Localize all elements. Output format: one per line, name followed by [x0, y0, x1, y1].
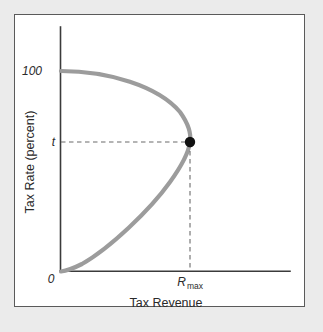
x-tick-label-rmax-base: R — [177, 275, 186, 289]
y-axis-title: Tax Rate (percent) — [23, 111, 37, 214]
x-tick-label-rmax-subscript: max — [187, 281, 204, 291]
origin-label-zero: 0 — [48, 272, 55, 286]
laffer-curve-path — [61, 71, 190, 272]
x-axis-title: Tax Revenue — [130, 296, 203, 310]
y-tick-label-t: t — [52, 135, 56, 149]
laffer-curve-chart: 100 t 0 R max Tax Revenue Tax Rate (perc… — [0, 0, 323, 332]
y-tick-label-100: 100 — [22, 64, 42, 78]
figure-root: 100 t 0 R max Tax Revenue Tax Rate (perc… — [0, 0, 323, 332]
revenue-maximizing-point — [185, 137, 195, 147]
